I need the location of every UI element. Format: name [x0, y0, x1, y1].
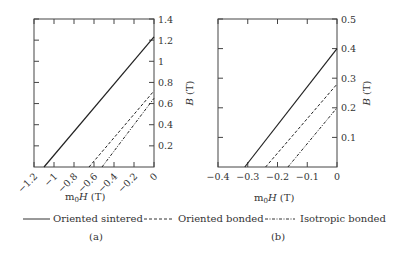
y-tick-label: 0.2: [158, 140, 173, 151]
series-line-isotropic-bonded: [288, 108, 337, 167]
x-tick-label: −0.3: [236, 171, 259, 182]
chart-b-frame: [218, 19, 337, 167]
series-line-isotropic-bonded: [102, 98, 154, 167]
chart-a-frame: [34, 19, 154, 167]
y-tick-label: 0.4: [341, 43, 356, 54]
x-tick-label: −0.4: [206, 171, 229, 182]
legend: Oriented sintered Oriented bonded Isotro…: [23, 213, 386, 224]
legend-label-oriented-sintered: Oriented sintered: [53, 213, 143, 224]
legend-label-oriented-bonded: Oriented bonded: [178, 213, 264, 224]
figure-canvas: −1.2−1−0.8−0.6−0.4−0.20 0.20.40.60.811.2…: [0, 0, 399, 253]
y-tick-label: 0.6: [158, 98, 173, 109]
x-tick-label: 0: [147, 171, 159, 183]
chart-a-y-ticks: 0.20.40.60.811.21.4: [34, 14, 173, 152]
x-tick-label: −1.2: [15, 171, 39, 195]
chart-a: −1.2−1−0.8−0.6−0.4−0.20 0.20.40.60.811.2…: [15, 14, 195, 243]
chart-a-x-axis-title: m0H (T): [65, 191, 105, 204]
legend-label-isotropic-bonded: Isotropic bonded: [300, 213, 386, 224]
y-tick-label: 0.5: [341, 14, 356, 25]
x-tick-label: −0.2: [115, 171, 139, 195]
chart-b-x-axis-title: m0H (T): [254, 192, 294, 205]
chart-a-lines: [44, 37, 154, 167]
y-tick-label: 0.8: [158, 77, 173, 88]
panel-b-label: (b): [271, 231, 285, 242]
series-line-oriented-sintered: [44, 37, 154, 167]
legend-item-isotropic-bonded: Isotropic bonded: [265, 213, 386, 224]
x-tick-label: 0: [334, 171, 340, 182]
chart-b-lines: [245, 49, 337, 167]
chart-a-y-axis-title: B (T): [184, 80, 195, 106]
chart-b-y-axis-title: B (T): [361, 80, 372, 106]
x-tick-label: −0.1: [296, 171, 319, 182]
panel-a-label: (a): [89, 231, 103, 242]
legend-item-oriented-sintered: Oriented sintered: [23, 213, 143, 224]
y-tick-label: 0.4: [158, 119, 173, 130]
x-tick-label: −0.2: [266, 171, 289, 182]
y-tick-label: 0.1: [341, 132, 356, 143]
y-tick-label: 1.2: [158, 35, 173, 46]
y-tick-label: 1: [158, 56, 164, 67]
series-line-oriented-sintered: [245, 49, 337, 167]
legend-item-oriented-bonded: Oriented bonded: [144, 213, 264, 224]
y-tick-label: 0.3: [341, 73, 356, 84]
chart-b: −0.4−0.3−0.2−0.10 0.10.20.30.40.5 m0H (T…: [206, 14, 372, 243]
y-tick-label: 1.4: [158, 14, 173, 25]
y-tick-label: 0.2: [341, 102, 356, 113]
chart-a-x-ticks: −1.2−1−0.8−0.6−0.4−0.20: [15, 19, 159, 195]
chart-b-y-ticks: 0.10.20.30.40.5: [218, 14, 356, 143]
